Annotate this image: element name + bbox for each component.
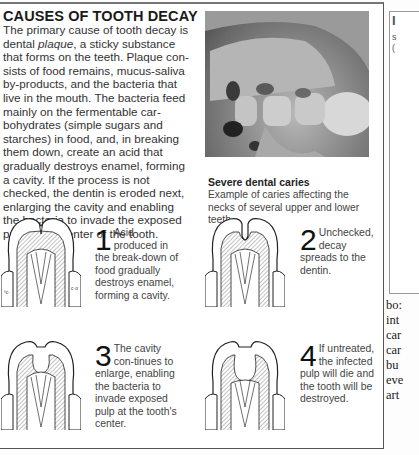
fragment-line: I [392, 15, 397, 26]
intro-line: enlarging the cavity and enabling [3, 200, 203, 214]
intro-line: checked, the dentin is eroded next, [3, 186, 203, 200]
intro-line: gradually destroys enamel, forming [3, 159, 203, 173]
step-3: 3 The cavity con-tinues to enlarge, enab… [95, 343, 179, 431]
intro-line: live in the mouth. The bacteria feed [3, 91, 203, 105]
intro-line: bohydrates (simple sugars and [3, 118, 203, 132]
step-1: 1 Acid produced in the break-down of foo… [95, 227, 179, 302]
intro-line: by-products, and the bacteria that [3, 77, 203, 91]
serif-line: car [386, 343, 403, 358]
intro-line: mainly on the fermentable car- [3, 105, 203, 119]
fragment-line: s [392, 32, 397, 43]
tooth-diagram-stage-1: ºc· c·o [1, 214, 81, 307]
adjacent-panel-fragment: I s ( [392, 15, 397, 54]
intro-line: that forms on the teeth. Plaque con- [3, 50, 203, 64]
tooth-diagram-stage-4 [205, 337, 285, 430]
intro-line: dental plaque, a sticky substance [3, 37, 203, 51]
serif-line: bo: [386, 298, 403, 313]
intro-paragraph: The primary cause of tooth decay is dent… [3, 23, 203, 241]
step-4-number: 4 [300, 344, 317, 368]
serif-line: car [386, 328, 403, 343]
serif-line: art [386, 388, 403, 403]
step-1-number: 1 [95, 228, 112, 252]
intro-line: sists of food remains, mucus-saliva [3, 64, 203, 78]
adjacent-body-text: bo: int car car bu eve art [386, 298, 403, 403]
step-2: 2 Unchecked, decay spreads to the dentin… [300, 227, 384, 277]
intro-line: them down, create an acid that [3, 145, 203, 159]
intro-line: starches) in food, and, in breaking [3, 132, 203, 146]
intro-line: The primary cause of tooth decay is [3, 23, 203, 37]
serif-line: int [386, 313, 403, 328]
svg-text:c·o: c·o [71, 285, 78, 291]
tooth-diagram-stage-2 [205, 214, 285, 307]
serif-line: eve [386, 373, 403, 388]
dental-caries-photo [205, 11, 369, 157]
svg-text:ºc·: ºc· [4, 289, 10, 295]
fragment-line: ( [392, 43, 397, 54]
intro-line: a cavity. If the process is not [3, 173, 203, 187]
step-4: 4 If untreated, the infected pulp will d… [300, 343, 384, 406]
step-2-number: 2 [300, 228, 317, 252]
step-3-number: 3 [95, 344, 112, 368]
serif-line: bu [386, 358, 403, 373]
tooth-diagram-stage-3 [1, 337, 81, 430]
photo-caption-title: Severe dental caries [208, 176, 310, 188]
section-title: CAUSES OF TOOTH DECAY [3, 8, 198, 24]
